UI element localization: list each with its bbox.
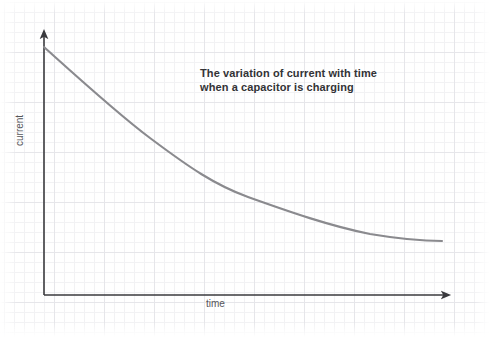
figure-caption: The variation of current with time when … xyxy=(200,66,377,94)
figure-canvas: The variation of current with time when … xyxy=(0,0,490,337)
caption-line-1: The variation of current with time xyxy=(200,66,377,80)
y-axis-label: current xyxy=(14,115,25,146)
graph-plot xyxy=(0,0,490,337)
caption-line-2: when a capacitor is charging xyxy=(200,80,377,94)
x-axis-label: time xyxy=(206,298,225,309)
